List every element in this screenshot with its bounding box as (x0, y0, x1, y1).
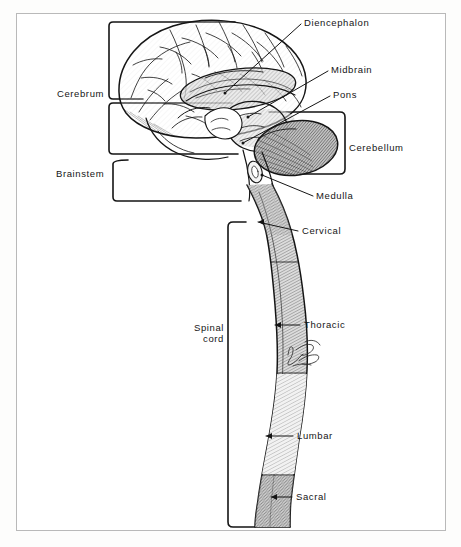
cns-illustration (0, 0, 461, 547)
label-medulla: Medulla (316, 190, 353, 201)
label-spinal-cord-line1: Spinal (194, 322, 224, 333)
label-cerebrum: Cerebrum (57, 88, 104, 99)
label-spinal-cord-line2: cord (203, 333, 224, 344)
label-cervical: Cervical (302, 225, 341, 236)
figure-page: Diencephalon Midbrain Pons Cerebellum Me… (0, 0, 461, 547)
label-diencephalon: Diencephalon (304, 17, 369, 28)
label-spinal-cord: Spinalcord (192, 322, 224, 344)
brainstem-bracket-lower (113, 160, 241, 201)
label-sacral: Sacral (296, 491, 327, 502)
label-thoracic: Thoracic (304, 319, 345, 330)
label-lumbar: Lumbar (297, 430, 333, 441)
label-pons: Pons (333, 89, 357, 100)
label-midbrain: Midbrain (331, 64, 372, 75)
label-cerebellum: Cerebellum (349, 142, 404, 153)
label-brainstem: Brainstem (56, 168, 104, 179)
